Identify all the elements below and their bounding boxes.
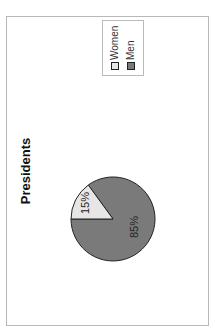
chart-legend: Women Men bbox=[102, 20, 144, 76]
rotated-chart-container: Presidents 15% 85% Women Men bbox=[6, 16, 209, 326]
legend-label-men: Men bbox=[125, 41, 136, 60]
legend-item-men: Men bbox=[125, 41, 136, 70]
legend-item-women: Women bbox=[109, 26, 120, 70]
legend-swatch-men bbox=[127, 62, 135, 70]
legend-swatch-women bbox=[111, 62, 119, 70]
slice-label-women: 15% bbox=[79, 192, 91, 214]
legend-label-women: Women bbox=[109, 26, 120, 60]
slice-label-men: 85% bbox=[128, 216, 140, 238]
